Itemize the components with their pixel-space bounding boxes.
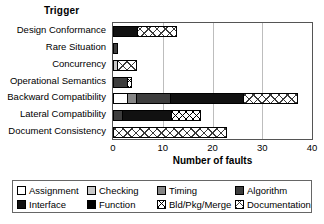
x-axis-tick-labels: 010203040: [112, 142, 313, 155]
bar-segment: [137, 26, 177, 37]
legend-item[interactable]: Algorithm: [235, 186, 287, 196]
bar-segment: [127, 77, 132, 88]
stacked-bar-chart: Trigger Design ConformanceRare Situation…: [0, 0, 324, 224]
bar-row: [113, 26, 177, 37]
bar-segment: [117, 60, 137, 71]
y-axis-label: Lateral Compatibility: [20, 108, 106, 119]
y-axis-label: Document Consistency: [8, 125, 106, 136]
y-axis-category-labels: Design ConformanceRare SituationConcurre…: [0, 22, 109, 140]
bar-row: [113, 127, 227, 138]
bar-segment: [243, 93, 298, 104]
legend-label: Assignment: [29, 186, 79, 196]
y-axis-label: Concurrency: [52, 58, 106, 69]
legend-item[interactable]: Function: [87, 200, 135, 210]
plot-area: [112, 22, 313, 140]
y-axis-label: Backward Compatibility: [7, 91, 106, 102]
x-tick-label: 40: [307, 142, 318, 153]
legend-item[interactable]: Documentation: [235, 200, 311, 210]
bar-segment: [113, 77, 128, 88]
bar-segment: [113, 26, 138, 37]
bar-row: [113, 77, 132, 88]
y-axis-label: Operational Semantics: [10, 75, 106, 86]
legend-label: Algorithm: [247, 186, 287, 196]
bar-segment: [136, 93, 171, 104]
legend-item[interactable]: Interface: [17, 200, 66, 210]
x-tick-label: 10: [157, 142, 168, 153]
legend-row-2: InterfaceFunctionBld/Pkg/MergeDocumentat…: [17, 198, 307, 211]
legend: AssignmentCheckingTimingAlgorithm Interf…: [12, 180, 312, 213]
legend-swatch-icon: [87, 186, 96, 195]
x-axis-title: Number of faults: [112, 155, 313, 166]
legend-label: Interface: [29, 200, 66, 210]
x-tick-label: 30: [257, 142, 268, 153]
bar-segment: [171, 110, 201, 121]
bar-row: [113, 110, 201, 121]
legend-item[interactable]: Bld/Pkg/Merge: [157, 200, 231, 210]
legend-swatch-icon: [87, 200, 96, 209]
bar-segment: [122, 110, 172, 121]
legend-item[interactable]: Checking: [87, 186, 139, 196]
legend-swatch-icon: [157, 186, 166, 195]
legend-swatch-icon: [17, 200, 26, 209]
y-axis-label: Rare Situation: [46, 41, 106, 52]
x-tick-label: 0: [110, 142, 115, 153]
legend-swatch-icon: [235, 200, 244, 209]
bar-rows: [113, 23, 312, 139]
bar-row: [113, 43, 118, 54]
legend-swatch-icon: [235, 186, 244, 195]
bar-segment: [113, 93, 128, 104]
bar-row: [113, 60, 137, 71]
legend-label: Timing: [169, 186, 197, 196]
legend-swatch-icon: [17, 186, 26, 195]
legend-label: Documentation: [247, 200, 311, 210]
legend-item[interactable]: Timing: [157, 186, 197, 196]
bar-segment: [170, 93, 245, 104]
y-axis-label: Design Conformance: [17, 24, 106, 35]
bar-segment: [113, 43, 118, 54]
x-tick-label: 20: [207, 142, 218, 153]
bar-segment: [113, 127, 227, 138]
bar-row: [113, 93, 298, 104]
legend-label: Checking: [99, 186, 139, 196]
legend-item[interactable]: Assignment: [17, 186, 79, 196]
chart-title: Trigger: [44, 5, 79, 16]
legend-label: Bld/Pkg/Merge: [169, 200, 231, 210]
legend-row-1: AssignmentCheckingTimingAlgorithm: [17, 184, 307, 197]
legend-swatch-icon: [157, 200, 166, 209]
legend-label: Function: [99, 200, 135, 210]
